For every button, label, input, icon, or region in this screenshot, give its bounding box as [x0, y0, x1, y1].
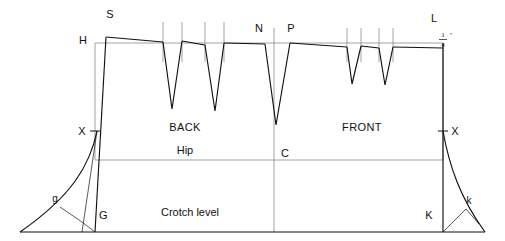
front-dart-1	[347, 46, 361, 84]
waist-back-seg-1	[106, 37, 163, 42]
point-label-P: P	[287, 22, 294, 34]
point-label-H: H	[79, 34, 87, 46]
diagram-canvas: H S N P L X X C G K g k BACK FRONT Hip C…	[0, 0, 505, 241]
region-label-front: FRONT	[342, 121, 382, 133]
waist-front-seg-3	[393, 47, 443, 48]
back-dart-1	[163, 41, 182, 109]
front-dart-2	[379, 47, 393, 85]
level-label-hip: Hip	[177, 144, 194, 156]
right-side-seam-curve	[443, 131, 485, 232]
fraction-denominator: 4	[441, 41, 445, 49]
point-label-N: N	[255, 22, 263, 34]
guide-lines	[95, 22, 443, 232]
g-angle-mark-base	[82, 222, 95, 232]
trouser-block-drawing: H S N P L X X C G K g k BACK FRONT Hip C…	[0, 0, 505, 241]
point-label-L: L	[431, 12, 437, 24]
left-inner-guide	[82, 131, 97, 232]
centre-dart-np	[265, 43, 290, 125]
point-label-S: S	[106, 8, 113, 20]
g-angle-mark	[60, 207, 82, 222]
point-label-X-right: X	[451, 125, 459, 137]
point-label-G: G	[99, 209, 108, 221]
k-angle-mark-base	[466, 209, 479, 224]
point-label-k-small: k	[467, 195, 473, 206]
quarter-inch-measurement: 1 4 "	[439, 31, 453, 49]
waist-front-seg-1	[290, 43, 347, 47]
back-dart-2	[205, 43, 224, 111]
point-label-C: C	[281, 147, 289, 159]
point-label-g-small: g	[52, 193, 58, 204]
fraction-numerator: 1	[441, 31, 445, 39]
point-label-X-left: X	[78, 125, 86, 137]
point-label-K: K	[425, 209, 433, 221]
block-outline	[20, 37, 485, 232]
k-angle-mark	[443, 209, 466, 232]
left-side-seam-curve	[20, 131, 97, 232]
region-label-back: BACK	[169, 121, 201, 133]
inch-mark: "	[450, 32, 453, 38]
labels: H S N P L X X C G K g k BACK FRONT Hip C…	[52, 8, 472, 221]
waist-front-seg-2	[361, 46, 379, 48]
level-label-crotch: Crotch level	[161, 206, 219, 218]
